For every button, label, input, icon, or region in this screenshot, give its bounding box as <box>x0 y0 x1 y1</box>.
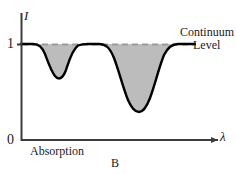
y-tick-label-one: 1 <box>7 37 14 51</box>
x-axis-label: λ <box>220 130 226 143</box>
y-axis-label: I <box>24 9 28 22</box>
absorption-spectrum-figure: I λ 1 0 Absorption Continuum Level B <box>0 0 236 174</box>
absorption-annotation: Absorption <box>30 145 84 157</box>
panel-label: B <box>111 157 119 169</box>
x-axis-arrowhead <box>211 137 218 143</box>
absorption-fill-area <box>21 44 195 112</box>
y-tick-label-zero: 0 <box>7 133 14 147</box>
continuum-level-annotation-line2: Level <box>193 39 220 51</box>
continuum-level-annotation-line1: Continuum <box>180 26 234 38</box>
